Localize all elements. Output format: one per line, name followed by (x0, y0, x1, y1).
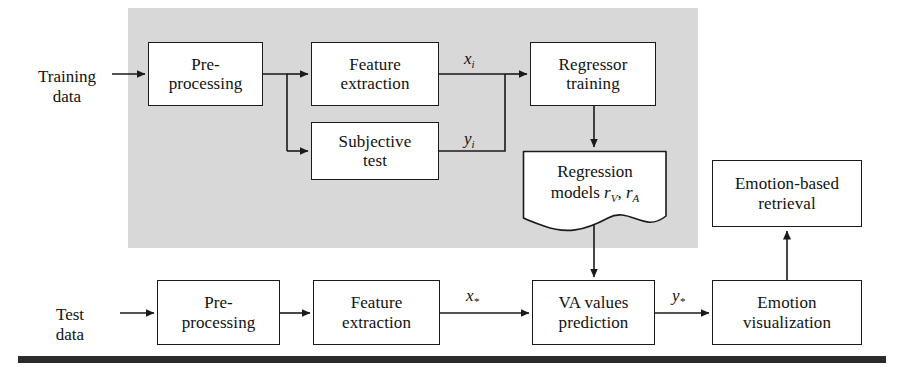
node-feature-extraction-training-line1: Feature (341, 55, 410, 74)
node-pre-processing-training-line1: Pre- (169, 55, 243, 74)
node-regression-models-line2: models rV, rA (522, 183, 668, 205)
var-rv: r (604, 183, 611, 202)
node-regressor-training-line2: training (559, 74, 628, 93)
edge-label-x-star-base: x (466, 286, 474, 305)
node-regression-models-line1: Regression (522, 162, 668, 181)
node-emotion-visualization[interactable]: Emotion visualization (712, 280, 862, 345)
edge-label-y-star: y* (672, 286, 685, 307)
node-regression-models-models-word: models (551, 183, 600, 202)
var-separator: , (617, 183, 626, 202)
var-ra: r (626, 183, 633, 202)
node-va-values-prediction[interactable]: VA values prediction (532, 280, 655, 345)
node-feature-extraction-training-line2: extraction (341, 74, 410, 93)
label-training-data-line1: Training (38, 67, 96, 86)
edge-label-x-i-sub: i (472, 58, 475, 70)
node-subjective-test[interactable]: Subjective test (311, 122, 439, 180)
figure-canvas: Training data Test data Pre- processing … (0, 0, 904, 373)
node-pre-processing-test[interactable]: Pre- processing (157, 280, 280, 345)
bottom-rule-bar (18, 356, 886, 363)
node-pre-processing-training[interactable]: Pre- processing (148, 42, 263, 106)
edge-label-x-i-base: x (464, 49, 472, 68)
label-training-data-line2: data (53, 87, 81, 106)
node-emotion-visualization-line1: Emotion (743, 293, 831, 312)
node-va-values-prediction-line1: VA values (558, 293, 628, 312)
node-feature-extraction-test[interactable]: Feature extraction (313, 280, 440, 345)
node-regression-models[interactable]: Regression models rV, rA (522, 150, 668, 240)
edge-label-y-star-sub: * (680, 295, 686, 307)
node-regressor-training[interactable]: Regressor training (530, 42, 656, 106)
node-va-values-prediction-line2: prediction (558, 313, 628, 332)
node-emotion-visualization-line2: visualization (743, 313, 831, 332)
edge-label-x-star: x* (466, 286, 479, 307)
node-subjective-test-line2: test (339, 151, 412, 170)
node-regressor-training-line1: Regressor (559, 55, 628, 74)
edge-label-y-i-base: y (464, 129, 472, 148)
edge-label-x-star-sub: * (474, 295, 480, 307)
node-pre-processing-test-line2: processing (182, 313, 256, 332)
node-feature-extraction-test-line2: extraction (342, 313, 411, 332)
label-test-data-line2: data (56, 325, 84, 344)
edge-label-y-i: yi (464, 129, 475, 150)
node-emotion-based-retrieval-line1: Emotion-based (735, 174, 839, 193)
node-pre-processing-test-line1: Pre- (182, 293, 256, 312)
edge-label-y-i-sub: i (472, 138, 475, 150)
label-training-data: Training data (22, 48, 112, 106)
var-ra-sub: A (633, 192, 640, 204)
node-subjective-test-line1: Subjective (339, 132, 412, 151)
node-emotion-based-retrieval-line2: retrieval (735, 194, 839, 213)
label-test-data: Test data (30, 286, 110, 344)
edge-label-y-star-base: y (672, 286, 680, 305)
node-feature-extraction-test-line1: Feature (342, 293, 411, 312)
edge-label-x-i: xi (464, 49, 475, 70)
label-test-data-line1: Test (56, 305, 84, 324)
node-emotion-based-retrieval[interactable]: Emotion-based retrieval (712, 160, 862, 227)
node-pre-processing-training-line2: processing (169, 74, 243, 93)
node-feature-extraction-training[interactable]: Feature extraction (311, 42, 439, 106)
